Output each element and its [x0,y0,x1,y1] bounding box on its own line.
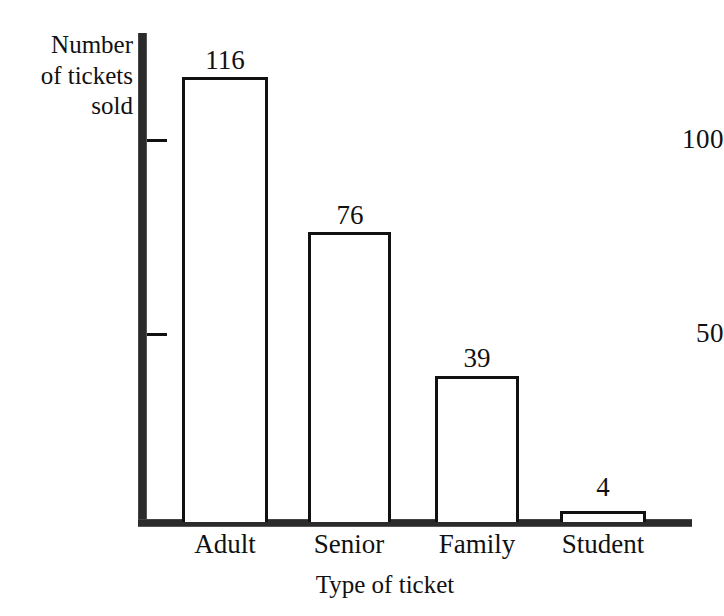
bar-value-student: 4 [543,474,663,501]
bar-adult[interactable] [182,77,268,522]
x-axis-title-text: Type of ticket [316,572,454,597]
bar-value-family: 39 [417,345,537,372]
x-axis-category-senior: Senior [276,531,422,558]
y-axis-tick-100 [147,139,167,142]
x-axis-category-family: Family [404,531,550,558]
y-axis-tick-label-100: 100 [642,126,724,153]
bar-student[interactable] [560,511,646,522]
x-axis-category-student: Student [530,531,676,558]
bar-chart-figure: Number of tickets sold 100 50 116 76 39 … [0,0,724,616]
y-axis-title-line-1: Number [18,30,133,61]
y-axis-title-line-2: of tickets [18,61,133,92]
y-axis-line [138,33,147,524]
bar-value-adult: 116 [165,47,285,74]
bar-value-senior: 76 [290,202,410,229]
bar-family[interactable] [435,376,519,522]
y-axis-tick-label-50: 50 [642,320,724,347]
bar-senior[interactable] [308,232,391,522]
y-axis-title: Number of tickets sold [18,30,133,122]
x-axis-title: Type of ticket [0,572,724,597]
y-axis-title-line-3: sold [18,91,133,122]
y-axis-tick-50 [147,333,167,336]
